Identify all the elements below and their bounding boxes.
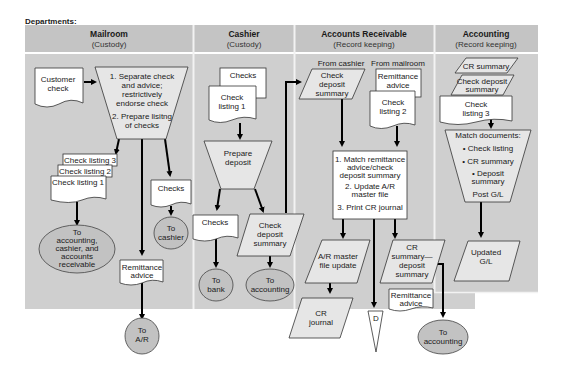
svg-text:Prepare: Prepare (224, 149, 253, 158)
svg-text:bank: bank (207, 285, 225, 294)
svg-text:A/R master: A/R master (318, 252, 358, 261)
cr-summary-accounting[interactable]: CR summary (455, 58, 518, 73)
svg-text:listing 1: listing 1 (218, 102, 246, 111)
svg-text:advice: advice (130, 271, 154, 280)
lane-role: (Record keeping) (455, 40, 517, 49)
to-accounting-terminal-ar[interactable]: To accounting (418, 320, 468, 354)
svg-text:accounting: accounting (251, 285, 290, 294)
svg-text:To: To (138, 326, 147, 335)
lane-ar-extension (434, 292, 475, 309)
lane-name: Mailroom (90, 29, 128, 39)
svg-text:Checks: Checks (202, 218, 229, 227)
svg-text:deposit: deposit (225, 158, 252, 167)
svg-text:To: To (266, 276, 275, 285)
svg-text:Checks: Checks (158, 184, 185, 193)
svg-text:Post G/L: Post G/L (472, 190, 504, 199)
svg-text:master file: master file (352, 190, 389, 199)
svg-text:1. Separate check: 1. Separate check (110, 72, 175, 81)
svg-text:G/L: G/L (480, 257, 493, 266)
match-update-print-process[interactable]: 1. Match remittance advice/check deposit… (333, 151, 407, 219)
to-cashier-terminal[interactable]: To cashier (154, 217, 188, 249)
check-listing-1-document-cashier[interactable]: Check listing 1 (209, 86, 256, 123)
svg-text:listing 2: listing 2 (379, 107, 407, 116)
svg-text:3. Print CR journal: 3. Print CR journal (337, 203, 403, 212)
lane-name: Accounts Receivable (321, 29, 407, 39)
svg-text:CR: CR (406, 243, 418, 252)
svg-text:advice: advice (399, 299, 423, 308)
svg-text:check: check (48, 84, 70, 93)
svg-text:summary: summary (466, 85, 499, 94)
svg-text:receivable: receivable (59, 260, 96, 269)
svg-text:To: To (439, 328, 448, 337)
svg-text:Check listing 1: Check listing 1 (52, 178, 105, 187)
svg-text:summary: summary (316, 89, 349, 98)
svg-text:Check: Check (382, 98, 406, 107)
from-cashier-label: From cashier (318, 59, 365, 68)
svg-text:2. Prepare lisitng: 2. Prepare lisitng (112, 112, 172, 121)
svg-text:CR: CR (315, 309, 327, 318)
to-all-departments-terminal[interactable]: To accounting, cashier, and accounts rec… (39, 225, 115, 273)
svg-text:Check: Check (465, 100, 489, 109)
lane-headers: Mailroom (Custody) Cashier (Custody) Acc… (25, 25, 538, 52)
svg-text:of checks: of checks (125, 121, 159, 130)
svg-text:Checks: Checks (230, 71, 257, 80)
lane-name: Cashier (228, 29, 260, 39)
svg-text:deposit: deposit (319, 80, 346, 89)
flowchart: Departments: Mailroom (Custody) Cashier … (0, 0, 562, 385)
svg-text:summary—: summary— (392, 252, 433, 261)
svg-text:Check listing 2: Check listing 2 (59, 167, 112, 176)
svg-text:Check: Check (321, 71, 345, 80)
svg-text:A/R: A/R (135, 335, 149, 344)
svg-text:Customer: Customer (41, 75, 76, 84)
to-accounting-terminal-cashier[interactable]: To accounting (246, 269, 294, 301)
svg-text:Check: Check (259, 221, 283, 230)
svg-text:journal: journal (308, 318, 333, 327)
svg-text:advice: advice (386, 81, 410, 90)
svg-text:listing 3: listing 3 (462, 109, 490, 118)
svg-text:summary: summary (254, 239, 287, 248)
svg-text:CR summary: CR summary (463, 62, 510, 71)
svg-text:Updated: Updated (471, 248, 501, 257)
svg-text:restrictively: restrictively (122, 90, 162, 99)
svg-text:summary: summary (472, 177, 505, 186)
check-deposit-summary-accounting[interactable]: Check deposit summary (451, 75, 514, 95)
svg-text:endorse check: endorse check (116, 99, 169, 108)
svg-text:• CR summary: • CR summary (462, 157, 514, 166)
lane-role: (Record keeping) (333, 40, 395, 49)
svg-text:cashier: cashier (158, 233, 184, 242)
svg-text:deposit: deposit (399, 261, 426, 270)
file-d-offline-storage[interactable]: D (368, 311, 383, 352)
svg-text:deposit summary: deposit summary (340, 171, 401, 180)
svg-text:and advice;: and advice; (122, 81, 163, 90)
svg-text:Match documents:: Match documents: (455, 131, 520, 140)
svg-text:Remittance: Remittance (378, 72, 419, 81)
svg-text:summary: summary (396, 270, 429, 279)
svg-text:accounting: accounting (424, 337, 463, 346)
svg-text:deposit: deposit (257, 230, 284, 239)
svg-text:To: To (167, 224, 176, 233)
lane-name: Accounting (463, 29, 510, 39)
check-listing-2-document-ar[interactable]: Check listing 2 (370, 91, 415, 129)
lane-role: (Custody) (92, 40, 127, 49)
svg-text:Check: Check (221, 93, 245, 102)
svg-text:D: D (373, 314, 379, 323)
svg-text:• Check listing: • Check listing (463, 144, 513, 153)
departments-title: Departments: (25, 17, 77, 26)
to-bank-terminal[interactable]: To bank (199, 269, 233, 301)
svg-text:file update: file update (320, 261, 357, 270)
from-mailroom-label: From mailroom (371, 59, 425, 68)
svg-text:Check listing 3: Check listing 3 (64, 156, 117, 165)
to-ar-terminal[interactable]: To A/R (125, 318, 159, 354)
svg-text:To: To (212, 276, 221, 285)
lane-role: (Custody) (227, 40, 262, 49)
